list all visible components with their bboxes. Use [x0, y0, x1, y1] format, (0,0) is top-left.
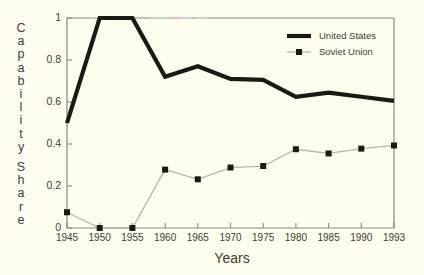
- x-axis-tick-label: 1993: [374, 232, 414, 243]
- y-axis-tick-label: 0.4: [35, 137, 61, 149]
- x-axis-title-text: Years: [174, 250, 249, 266]
- y-axis-tick-label: 0.8: [35, 53, 61, 65]
- y-axis-tick-label: 1: [35, 11, 61, 23]
- chart-figure: C a p a b i l i t y S h a r e 00.20.40.6…: [0, 0, 424, 275]
- legend-item-label: United States: [319, 30, 376, 41]
- y-axis-tick-label: 0.2: [35, 179, 61, 191]
- legend-item-label: Soviet Union: [319, 46, 373, 57]
- x-axis-title: Years: [0, 250, 424, 266]
- y-axis-tick-label: 0.6: [35, 95, 61, 107]
